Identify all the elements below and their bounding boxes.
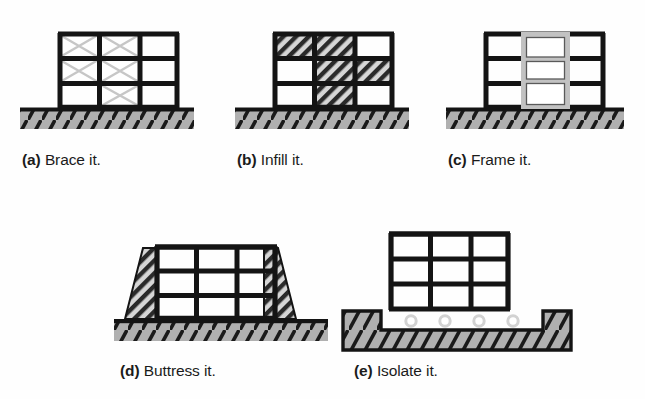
caption-tag: (c) xyxy=(448,151,467,168)
frame-skeleton xyxy=(389,233,510,310)
caption-label: Brace it. xyxy=(45,151,101,168)
caption-label: Frame it. xyxy=(471,151,531,168)
panel-brace: (a) Brace it. xyxy=(0,0,215,190)
buttress-left xyxy=(125,248,157,319)
caption-frame: (c) Frame it. xyxy=(448,152,531,168)
frame-diagram xyxy=(430,0,645,150)
caption-tag: (b) xyxy=(237,151,257,168)
caption-infill: (b) Infill it. xyxy=(237,152,304,168)
ground-strip xyxy=(114,319,328,341)
frame-skeleton xyxy=(155,246,277,320)
buttress-diagram xyxy=(100,210,350,360)
infill-diagram xyxy=(215,0,430,150)
panel-infill: (b) Infill it. xyxy=(215,0,430,190)
caption-label: Isolate it. xyxy=(377,362,438,379)
infill-panel-group xyxy=(276,35,392,107)
buttress-group xyxy=(125,248,296,319)
ground-strip xyxy=(20,108,194,130)
caption-label: Buttress it. xyxy=(144,362,216,379)
caption-brace: (a) Brace it. xyxy=(22,152,101,168)
moment-frame-insert xyxy=(521,32,570,109)
caption-buttress: (d) Buttress it. xyxy=(120,363,216,379)
caption-tag: (e) xyxy=(354,362,373,379)
caption-isolate: (e) Isolate it. xyxy=(354,363,438,379)
caption-tag: (a) xyxy=(22,151,41,168)
panel-isolate: (e) Isolate it. xyxy=(335,210,580,399)
buttress-right xyxy=(264,248,296,319)
panel-frame: (c) Frame it. xyxy=(430,0,645,190)
retrofit-strategies-figure: (a) Brace it. xyxy=(0,0,645,399)
ground-strip xyxy=(235,108,409,130)
caption-tag: (d) xyxy=(120,362,140,379)
isolate-diagram xyxy=(335,210,580,360)
ground-pit xyxy=(343,311,571,350)
caption-label: Infill it. xyxy=(261,151,304,168)
panel-buttress: (d) Buttress it. xyxy=(100,210,350,399)
isolator-group xyxy=(406,316,518,326)
brace-diagram xyxy=(0,0,215,150)
ground-strip xyxy=(446,108,624,130)
